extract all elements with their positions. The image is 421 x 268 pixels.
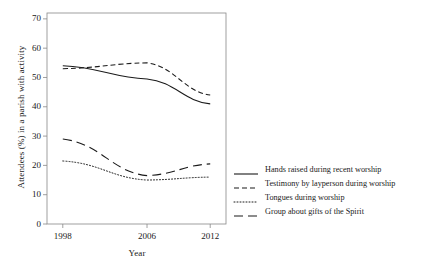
legend-item-label: Tongues during worship	[265, 193, 344, 203]
legend-line-sample	[233, 165, 259, 175]
plot-frame	[47, 13, 226, 224]
legend-line-sample	[233, 193, 259, 203]
legend-item-label: Testimony by layperson during worship	[265, 179, 395, 189]
legend-item-label: Hands raised during recent worship	[265, 165, 381, 175]
line-chart-figure: Attendees (%) in a parish with activity …	[0, 0, 421, 268]
series-line-3	[63, 161, 210, 180]
plot-area	[0, 0, 421, 268]
legend-item[interactable]: Hands raised during recent worship	[233, 163, 421, 177]
series-line-1	[63, 66, 210, 104]
legend-line-sample	[233, 179, 259, 189]
chart-legend: Hands raised during recent worshipTestim…	[233, 163, 421, 219]
legend-item[interactable]: Group about gifts of the Spirit	[233, 205, 421, 219]
legend-item[interactable]: Testimony by layperson during worship	[233, 177, 421, 191]
legend-item-label: Group about gifts of the Spirit	[265, 207, 364, 217]
legend-item[interactable]: Tongues during worship	[233, 191, 421, 205]
series-line-4	[63, 139, 210, 176]
legend-line-sample	[233, 207, 259, 217]
